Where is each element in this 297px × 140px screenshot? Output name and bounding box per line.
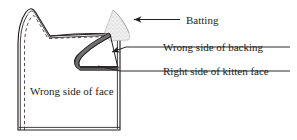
- wrong-side-face-label: Wrong side of face: [30, 85, 114, 97]
- right-side-kitten-face-label: Right side of kitten face: [163, 65, 269, 77]
- callout-batting: Batting: [134, 14, 219, 26]
- batting-label: Batting: [186, 14, 219, 26]
- callout-wrong-side-backing: Wrong side of backing: [112, 41, 290, 53]
- diagram-canvas: Batting Wrong side of backing Right side…: [0, 0, 297, 140]
- wrong-side-backing-label: Wrong side of backing: [163, 41, 264, 53]
- sewing-diagram: Batting Wrong side of backing Right side…: [0, 0, 297, 140]
